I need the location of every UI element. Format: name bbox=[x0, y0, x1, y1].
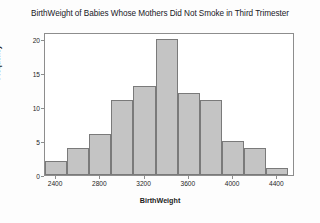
histogram-figure: BirthWeight of Babies Whose Mothers Did … bbox=[0, 0, 320, 223]
histogram-bar bbox=[156, 39, 178, 175]
x-tick-label: 3200 bbox=[136, 180, 151, 187]
y-tick-label: 15 bbox=[28, 70, 40, 77]
y-tick-mark bbox=[41, 176, 44, 177]
bars-container bbox=[45, 34, 293, 175]
x-tick-mark bbox=[144, 176, 145, 179]
x-tick-label: 2400 bbox=[48, 180, 63, 187]
y-tick-label: 10 bbox=[28, 104, 40, 111]
x-tick-mark bbox=[232, 176, 233, 179]
chart-title: BirthWeight of Babies Whose Mothers Did … bbox=[0, 9, 320, 18]
histogram-bar bbox=[222, 141, 244, 175]
histogram-bar bbox=[178, 93, 200, 175]
x-tick-label: 4400 bbox=[269, 180, 284, 187]
y-tick-label: 20 bbox=[28, 36, 40, 43]
y-axis-label: Frequency bbox=[0, 46, 1, 81]
histogram-bar bbox=[200, 100, 222, 175]
histogram-bar bbox=[111, 100, 133, 175]
plot-area bbox=[44, 33, 294, 176]
histogram-bar bbox=[45, 161, 67, 175]
histogram-bar bbox=[133, 86, 155, 175]
histogram-bar bbox=[89, 134, 111, 175]
x-tick-mark bbox=[188, 176, 189, 179]
x-tick-mark bbox=[99, 176, 100, 179]
histogram-bar bbox=[67, 148, 89, 175]
histogram-bar bbox=[244, 148, 266, 175]
x-tick-label: 2800 bbox=[92, 180, 107, 187]
x-tick-label: 4000 bbox=[225, 180, 240, 187]
x-axis-label: BirthWeight bbox=[0, 196, 320, 205]
y-tick-label: 5 bbox=[28, 138, 40, 145]
x-tick-mark bbox=[55, 176, 56, 179]
x-tick-label: 3600 bbox=[180, 180, 195, 187]
y-tick-label: 0 bbox=[28, 173, 40, 180]
histogram-bar bbox=[266, 168, 288, 175]
x-tick-mark bbox=[276, 176, 277, 179]
